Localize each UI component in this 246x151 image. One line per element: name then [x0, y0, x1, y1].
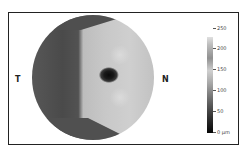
colorbar-tick: [213, 28, 216, 29]
colorbar-tick: [213, 111, 216, 112]
colorbar-tick: [213, 48, 216, 49]
temporal-label: T: [15, 75, 20, 84]
thin-region-bottom: [32, 118, 132, 141]
colorbar-label-100: 100: [217, 87, 227, 93]
colorbar-label-250: 250: [217, 25, 227, 31]
colorbar: [207, 37, 213, 133]
colorbar-tick: [213, 69, 216, 70]
colorbar-tick: [213, 90, 216, 91]
colorbar-label-200: 200: [217, 45, 227, 51]
colorbar-tick: [213, 132, 216, 133]
thickness-map: [32, 15, 154, 140]
colorbar-label-50: 50: [217, 108, 223, 114]
nasal-label: N: [162, 75, 169, 84]
colorbar-label-0: 0 µm: [217, 129, 230, 135]
colorbar-label-150: 150: [217, 66, 227, 72]
thin-region-top: [32, 15, 130, 30]
